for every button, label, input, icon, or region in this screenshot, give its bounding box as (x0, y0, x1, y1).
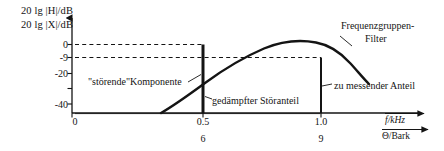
leader-filter-label (340, 36, 352, 46)
x-axis (72, 113, 418, 118)
filter-response-curve (161, 41, 369, 113)
figure-frequency-group-filter: 20 lg |H|/dB 20 lg |X|/dB 0 -9 -20 -40 0… (0, 0, 444, 151)
leader-damped-disturbance (205, 97, 212, 100)
axis-name-decorations (382, 114, 428, 130)
leader-disturbing-component (188, 75, 201, 83)
y-axis (68, 18, 73, 113)
leader-measured-part (322, 84, 332, 86)
plot-canvas (0, 0, 444, 151)
reference-lines (75, 45, 321, 58)
